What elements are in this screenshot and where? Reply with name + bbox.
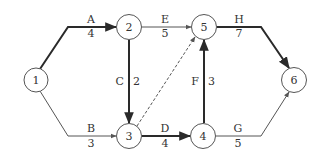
edge-d-name: D [161, 122, 170, 135]
node-6-label: 6 [291, 74, 298, 87]
edge-g-name: G [234, 122, 243, 135]
node-2: 2 [117, 15, 142, 40]
node-2-label: 2 [126, 21, 133, 34]
edge-d: D 4 [142, 122, 190, 150]
edge-a-duration: 4 [88, 27, 95, 40]
node-1-label: 1 [33, 74, 40, 87]
edge-e: E 5 [142, 13, 191, 40]
node-3: 3 [117, 124, 142, 149]
activity-network-diagram: A 4 B 3 C 2 E 5 D 4 F 3 H 7 [0, 0, 321, 161]
node-6: 6 [282, 68, 307, 93]
edge-c-duration: 2 [133, 75, 140, 88]
edge-e-name: E [161, 13, 169, 26]
node-5: 5 [192, 15, 217, 40]
edge-a-name: A [86, 13, 96, 26]
node-1: 1 [24, 68, 48, 92]
edge-f-duration: 3 [208, 75, 215, 88]
edge-f-name: F [191, 75, 199, 88]
edge-b-duration: 3 [88, 137, 95, 150]
edge-h-duration: 7 [236, 27, 243, 40]
edge-b-name: B [87, 122, 95, 135]
edge-e-duration: 5 [162, 27, 169, 40]
edge-b: B 3 [40, 91, 116, 150]
node-4: 4 [191, 124, 216, 149]
edge-g: G 5 [216, 92, 289, 150]
edge-dummy [137, 37, 195, 126]
node-3-label: 3 [126, 130, 133, 143]
edge-c: C 2 [116, 40, 140, 123]
edge-h: H 7 [217, 13, 289, 68]
edge-c-name: C [116, 75, 124, 88]
node-4-label: 4 [200, 130, 207, 143]
edge-f: F 3 [191, 40, 215, 123]
edge-h-name: H [234, 13, 244, 26]
edge-a: A 4 [40, 13, 116, 69]
edge-g-duration: 5 [235, 137, 242, 150]
node-5-label: 5 [201, 21, 208, 34]
edge-d-duration: 4 [162, 137, 169, 150]
